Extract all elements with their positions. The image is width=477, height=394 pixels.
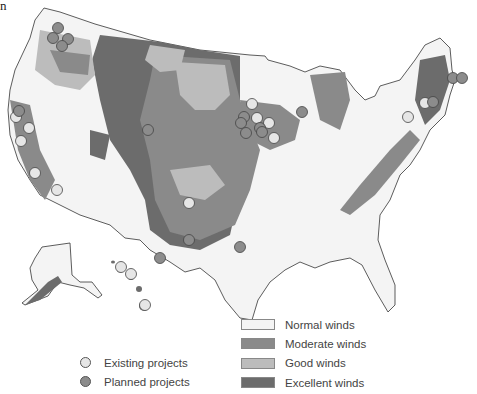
legend-item-normal: Normal winds [241, 315, 366, 334]
existing-project-marker [24, 123, 35, 134]
wind-map [0, 0, 477, 394]
legend-label: Existing projects [104, 357, 188, 369]
planned-project-marker [428, 97, 439, 108]
existing-project-icon [80, 357, 91, 368]
alaska-outline [22, 243, 102, 305]
legend-winds: Normal winds Moderate winds Good winds E… [241, 315, 366, 392]
existing-project-marker [30, 168, 41, 179]
existing-project-marker [116, 262, 127, 273]
existing-project-marker [52, 185, 63, 196]
legend-label: Normal winds [285, 319, 355, 331]
planned-project-marker [236, 118, 247, 129]
existing-project-marker [126, 269, 137, 280]
existing-project-marker [140, 300, 151, 311]
legend-label: Good winds [285, 357, 346, 369]
excellent-winds-swatch [241, 377, 275, 388]
good-winds-swatch [241, 358, 275, 369]
planned-project-marker [155, 253, 166, 264]
legend-label: Planned projects [104, 376, 190, 388]
planned-project-marker [241, 128, 252, 139]
planned-project-icon [80, 376, 91, 387]
legend-item-moderate: Moderate winds [241, 334, 366, 353]
legend-item-excellent: Excellent winds [241, 373, 366, 392]
planned-project-marker [257, 127, 268, 138]
planned-project-marker [48, 33, 59, 44]
existing-project-marker [184, 198, 195, 209]
existing-project-marker [247, 99, 258, 110]
planned-project-marker [457, 73, 468, 84]
planned-project-marker [235, 242, 246, 253]
normal-winds-swatch [241, 319, 275, 330]
planned-project-marker [297, 107, 308, 118]
planned-project-marker [57, 41, 68, 52]
legend-item-existing: Existing projects [80, 353, 190, 372]
existing-project-marker [269, 133, 280, 144]
planned-project-marker [14, 106, 25, 117]
moderate-winds-swatch [241, 338, 275, 349]
existing-project-marker [252, 113, 263, 124]
legend-item-planned: Planned projects [80, 372, 190, 391]
planned-project-marker [143, 125, 154, 136]
legend-label: Moderate winds [285, 338, 366, 350]
legend-projects: Existing projects Planned projects [80, 353, 190, 391]
legend-label: Excellent winds [285, 377, 364, 389]
existing-project-marker [403, 112, 414, 123]
planned-project-marker [53, 23, 64, 34]
legend-item-good: Good winds [241, 354, 366, 373]
existing-project-marker [16, 136, 27, 147]
planned-project-marker [184, 235, 195, 246]
